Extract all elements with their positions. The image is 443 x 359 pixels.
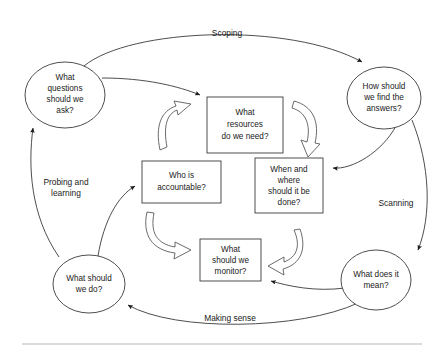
phase-label-scanning-text: Scanning (379, 198, 414, 208)
outer-node-what-do[interactable]: What should we do? (53, 255, 125, 313)
intelligence-cycle-diagram: What questions should we ask? How should… (0, 0, 443, 359)
arc-scanning (412, 120, 427, 250)
arc-scoping (84, 35, 362, 66)
outer-node-what-means-line-0: What does it (353, 270, 399, 279)
outer-node-find-answers-line-0: How should (363, 82, 406, 91)
block-arrow-lower-right-icon (268, 229, 303, 275)
diagram-canvas: What questions should we ask? How should… (0, 0, 443, 359)
block-arrow-upper-left-icon (158, 101, 191, 150)
phase-label-probing-and-learning-line-1: learning (51, 188, 81, 198)
spoke-questions-to-resources (102, 78, 200, 95)
phase-label-scanning: Scanning (379, 198, 414, 208)
inner-node-monitor[interactable]: What should we monitor? (200, 239, 261, 281)
inner-node-monitor-line-2: monitor? (215, 267, 247, 276)
inner-node-resources-line-0: What (235, 108, 255, 117)
outer-node-what-means-shape (341, 250, 411, 310)
inner-node-accountable-line-0: Who is (169, 171, 194, 180)
outer-node-what-do-line-0: What should (66, 274, 112, 283)
outer-node-find-answers-line-1: we find the (363, 93, 404, 102)
outer-node-find-answers[interactable]: How should we find the answers? (347, 67, 421, 129)
inner-node-accountable[interactable]: Who is accountable? (142, 161, 221, 203)
spoke-do-to-accountable (98, 186, 135, 256)
phase-label-scoping: Scoping (212, 28, 243, 38)
outer-node-questions-line-0: What (55, 73, 75, 82)
phase-label-scoping-text: Scoping (212, 28, 243, 38)
outer-node-what-means-line-1: mean? (363, 281, 388, 290)
inner-node-when-where-line-2: should it be (268, 187, 310, 196)
inner-node-resources-line-2: do we need? (222, 132, 269, 141)
inner-node-resources-line-1: resources (227, 120, 263, 129)
block-arrow-lower-left-icon (146, 212, 191, 259)
outer-node-questions-line-1: questions (47, 84, 82, 93)
inner-node-resources[interactable]: What resources do we need? (207, 97, 283, 153)
spoke-means-to-monitor (271, 281, 345, 289)
phase-label-making-sense: Making sense (204, 313, 256, 323)
phase-label-making-sense-text: Making sense (204, 313, 256, 323)
outer-node-what-do-shape (53, 255, 125, 313)
inner-node-when-where-line-1: where (277, 176, 301, 185)
inner-node-monitor-line-0: What (221, 245, 241, 254)
block-arrow-upper-right-icon (292, 101, 320, 157)
outer-node-questions-line-3: ask? (56, 106, 74, 115)
inner-node-accountable-line-1: accountable? (157, 183, 206, 192)
inner-node-when-where-line-0: When and (270, 165, 308, 174)
inner-node-monitor-line-1: should we (212, 256, 249, 265)
outer-node-what-means[interactable]: What does it mean? (341, 250, 411, 310)
outer-node-questions-line-2: should we (47, 95, 84, 104)
inner-node-when-where-line-3: done? (278, 198, 301, 207)
inner-node-when-where[interactable]: When and where should it be done? (255, 158, 323, 213)
spoke-answers-to-when-where (333, 126, 396, 168)
phase-label-probing-and-learning: Probing and learning (43, 177, 89, 198)
outer-node-what-do-line-1: we do? (75, 285, 103, 294)
phase-label-probing-and-learning-line-0: Probing and (43, 177, 89, 187)
inner-node-accountable-shape (142, 161, 221, 203)
outer-node-questions[interactable]: What questions should we ask? (25, 62, 105, 128)
outer-node-find-answers-line-2: answers? (366, 104, 401, 113)
